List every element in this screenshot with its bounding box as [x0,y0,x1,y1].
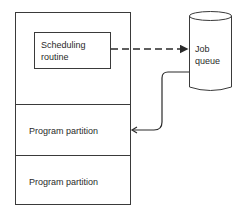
arrow-queue-to-partition [133,72,189,130]
diagram-canvas: Scheduling routine Program partition Pro… [0,0,244,220]
partition-label: Program partition [29,126,98,136]
scheduling-routine-box [35,33,111,69]
job-queue-label-line2: queue [195,56,220,66]
scheduling-routine-label-line1: Scheduling [41,40,86,50]
job-queue-label-line1: Job [195,44,210,54]
scheduling-routine-label-line2: routine [41,52,69,62]
partition-label: Program partition [29,177,98,187]
